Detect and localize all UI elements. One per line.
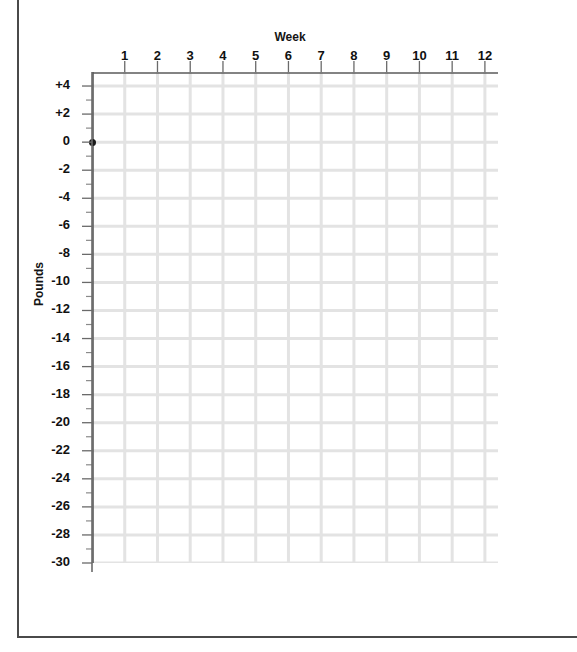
x-tick-label: 3: [175, 48, 205, 63]
y-tick-label: -24: [26, 470, 70, 485]
x-tick-label: 8: [339, 48, 369, 63]
data-point-marker: [89, 139, 96, 146]
x-tick-label: 5: [241, 48, 271, 63]
x-tick-label: 1: [110, 48, 140, 63]
y-tick-label: -12: [26, 301, 70, 316]
y-tick-label: -22: [26, 442, 70, 457]
y-tick-label: -6: [26, 217, 70, 232]
y-tick-label: -4: [26, 189, 70, 204]
x-tick-label: 6: [273, 48, 303, 63]
x-tick-label: 4: [208, 48, 238, 63]
y-tick-label: -2: [26, 161, 70, 176]
y-tick-label: -8: [26, 245, 70, 260]
y-tick-label: -20: [26, 414, 70, 429]
y-tick-label: -26: [26, 498, 70, 513]
x-tick-label: 7: [306, 48, 336, 63]
y-tick-label: 0: [26, 133, 70, 148]
x-axis-title: Week: [255, 30, 325, 44]
y-tick-label: +4: [26, 77, 70, 92]
x-tick-label: 2: [142, 48, 172, 63]
grid-lines: [92, 72, 498, 563]
plot-area: [92, 72, 498, 563]
x-tick-label: 9: [372, 48, 402, 63]
x-tick-label: 10: [404, 48, 434, 63]
y-tick-label: +2: [26, 105, 70, 120]
y-tick-label: -14: [26, 330, 70, 345]
y-tick-label: -30: [26, 554, 70, 569]
y-tick-label: -18: [26, 386, 70, 401]
y-tick-label: -10: [26, 273, 70, 288]
x-tick-label: 12: [470, 48, 500, 63]
y-tick-label: -28: [26, 526, 70, 541]
y-tick-label: -16: [26, 358, 70, 373]
x-tick-label: 11: [437, 48, 467, 63]
